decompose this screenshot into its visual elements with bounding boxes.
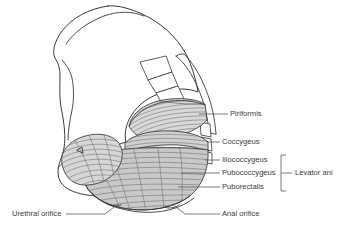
label-pubococcygeus: Pubococcygeus — [222, 168, 276, 177]
label-puborectalis: Puborectalis — [222, 182, 264, 191]
label-urethral-orifice: Urethral orifice — [12, 209, 61, 218]
label-iliococcygeus: Iliococcygeus — [222, 155, 268, 164]
anatomy-diagram-canvas: Piriformis Coccygeus Iliococcygeus Puboc… — [0, 0, 338, 235]
levator-ani-bracket — [281, 155, 292, 191]
label-levator-ani: Levator ani — [295, 168, 333, 177]
label-coccygeus: Coccygeus — [222, 137, 260, 146]
leader-anal-orifice — [172, 204, 220, 214]
label-piriformis: Piriformis — [230, 109, 262, 118]
label-anal-orifice: Anal orifice — [222, 209, 260, 218]
anatomy-figure: Piriformis Coccygeus Iliococcygeus Puboc… — [0, 0, 338, 235]
